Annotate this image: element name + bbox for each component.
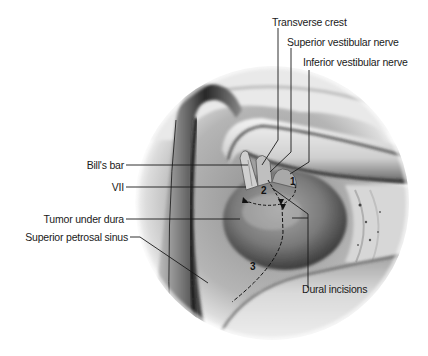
label-superior-vestibular-nerve: Superior vestibular nerve [287, 36, 399, 48]
label-inferior-vestibular-nerve: Inferior vestibular nerve [303, 56, 408, 68]
label-transverse-crest: Transverse crest [272, 16, 347, 28]
incision-number-1: 1 [290, 176, 296, 187]
incision-number-3: 3 [250, 261, 256, 272]
label-tumor-under-dura: Tumor under dura [44, 213, 124, 225]
incision-number-2: 2 [261, 185, 267, 196]
label-dural-incisions: Dural incisions [302, 283, 367, 295]
label-superior-petrosal-sinus: Superior petrosal sinus [25, 231, 128, 243]
surgical-illustration: 1 2 3 [0, 0, 428, 356]
label-vii: VII [112, 181, 124, 193]
label-bills-bar: Bill's bar [87, 159, 124, 171]
